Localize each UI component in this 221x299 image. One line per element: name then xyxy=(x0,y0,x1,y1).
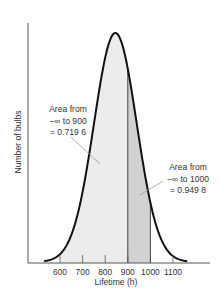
x-axis-label: Lifetime (h) xyxy=(95,277,138,287)
tick-label-1000: 1000 xyxy=(141,267,160,277)
svg-text:Area from: Area from xyxy=(49,104,87,114)
svg-text:−∞ to 900: −∞ to 900 xyxy=(49,116,87,126)
svg-text:−∞ to 1000: −∞ to 1000 xyxy=(167,174,209,184)
region-0 xyxy=(60,33,128,263)
region-1 xyxy=(128,69,151,263)
svg-text:= 0.719 6: = 0.719 6 xyxy=(50,127,86,137)
tick-label-700: 700 xyxy=(76,267,90,277)
y-axis-label: Number of bulbs xyxy=(13,110,23,173)
annotation-right: Area from −∞ to 1000 = 0.949 8 xyxy=(140,162,209,195)
svg-text:Area from: Area from xyxy=(169,162,207,172)
normal-distribution-chart: 60070080090010001100 Lifetime (h) Number… xyxy=(0,0,221,299)
tick-label-1100: 1100 xyxy=(164,267,182,277)
tick-label-800: 800 xyxy=(98,267,112,277)
svg-text:= 0.949 8: = 0.949 8 xyxy=(170,185,206,195)
tick-label-600: 600 xyxy=(53,267,67,277)
tick-label-900: 900 xyxy=(121,267,135,277)
